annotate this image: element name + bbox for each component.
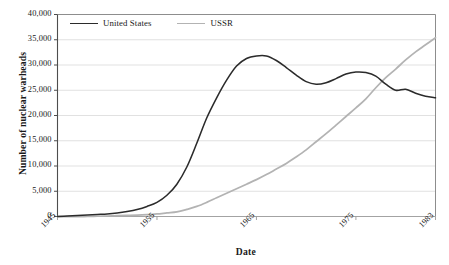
- plot-area: [0, 0, 449, 265]
- legend-label-united-states: United States: [103, 18, 151, 28]
- legend-item-ussr: USSR: [177, 18, 232, 28]
- legend-line-swatch-icon: [177, 23, 205, 24]
- chart-legend: United States USSR: [70, 18, 233, 28]
- legend-line-swatch-icon: [70, 23, 98, 24]
- data-line-ussr: [58, 38, 436, 217]
- y-axis-title: Number of nuclear warheads: [17, 39, 28, 189]
- y-axis-tick-label: 40,000: [0, 9, 52, 18]
- data-line-united-states: [58, 55, 436, 216]
- x-axis-title: Date: [57, 246, 435, 257]
- legend-label-ussr: USSR: [210, 18, 232, 28]
- legend-item-united-states: United States: [70, 18, 151, 28]
- nuclear-warheads-line-chart: 05,00010,00015,00020,00025,00030,00035,0…: [0, 0, 449, 265]
